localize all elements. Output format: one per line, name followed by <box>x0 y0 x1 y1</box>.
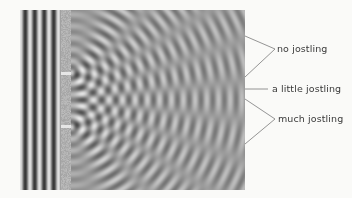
no-jostling-bracket <box>245 36 275 77</box>
much-jostling-label: much jostling <box>278 113 343 124</box>
annotation-lines <box>0 0 352 198</box>
no-jostling-label: no jostling <box>277 43 327 54</box>
much-jostling-bracket <box>245 99 275 144</box>
a-little-jostling-label: a little jostling <box>272 83 341 94</box>
